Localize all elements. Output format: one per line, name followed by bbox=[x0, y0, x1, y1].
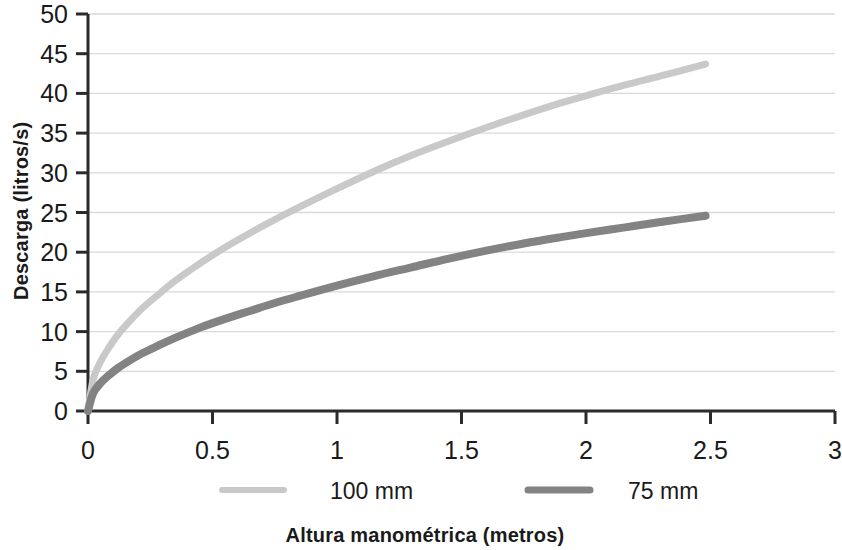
x-axis-tick-labels: 00.511.522.53 bbox=[81, 436, 842, 464]
x-axis-title: Altura manométrica (metros) bbox=[286, 524, 565, 546]
y-axis-tick-label: 40 bbox=[40, 79, 68, 107]
x-axis-tick-label: 3 bbox=[828, 436, 842, 464]
x-axis-title-group: Altura manométrica (metros) bbox=[286, 524, 565, 546]
legend: 100 mm75 mm bbox=[222, 478, 698, 504]
y-axis-tick-label: 50 bbox=[40, 0, 68, 28]
legend-label: 100 mm bbox=[330, 478, 413, 504]
legend-label: 75 mm bbox=[628, 478, 698, 504]
y-axis-title-group: Descarga (litros/s) bbox=[10, 122, 32, 300]
x-axis-tick-label: 1.5 bbox=[444, 436, 479, 464]
y-axis-tick-label: 30 bbox=[40, 159, 68, 187]
x-axis-tick-label: 2 bbox=[579, 436, 593, 464]
x-axis-ticks bbox=[88, 411, 835, 424]
line-chart: 05101520253035404550 00.511.522.53 Desca… bbox=[0, 0, 842, 550]
y-axis-tick-label: 45 bbox=[40, 40, 68, 68]
y-axis-tick-label: 10 bbox=[40, 318, 68, 346]
y-axis-tick-label: 0 bbox=[54, 397, 68, 425]
y-axis-tick-label: 5 bbox=[54, 357, 68, 385]
y-axis-tick-label: 15 bbox=[40, 278, 68, 306]
x-axis-tick-label: 0 bbox=[81, 436, 95, 464]
y-axis-ticks bbox=[76, 14, 88, 411]
data-series bbox=[88, 64, 706, 411]
series-line bbox=[88, 216, 706, 411]
x-axis-tick-label: 1 bbox=[330, 436, 344, 464]
y-axis-tick-label: 20 bbox=[40, 238, 68, 266]
series-line bbox=[88, 64, 706, 411]
x-axis-tick-label: 0.5 bbox=[195, 436, 230, 464]
gridlines bbox=[88, 14, 835, 371]
y-axis-tick-label: 35 bbox=[40, 119, 68, 147]
y-axis-tick-label: 25 bbox=[40, 199, 68, 227]
y-axis-tick-labels: 05101520253035404550 bbox=[40, 0, 68, 425]
chart-container: 05101520253035404550 00.511.522.53 Desca… bbox=[0, 0, 842, 550]
x-axis-tick-label: 2.5 bbox=[693, 436, 728, 464]
y-axis-title: Descarga (litros/s) bbox=[10, 122, 32, 300]
